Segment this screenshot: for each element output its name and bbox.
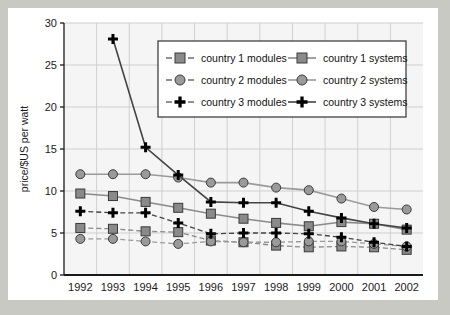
x-tick-label: 2002 xyxy=(394,281,418,293)
legend-label: country 1 modules xyxy=(201,52,287,64)
marker-circle xyxy=(141,170,150,179)
marker-circle xyxy=(108,234,117,243)
marker-square xyxy=(175,53,185,63)
marker-square xyxy=(76,223,85,232)
marker-square xyxy=(108,224,117,233)
y-tick-label: 5 xyxy=(51,227,57,239)
x-tick-label: 1998 xyxy=(264,281,288,293)
marker-square xyxy=(108,192,117,201)
y-tick-label: 10 xyxy=(45,185,57,197)
marker-circle xyxy=(206,178,215,187)
marker-square xyxy=(76,189,85,198)
marker-circle xyxy=(239,238,248,247)
marker-circle xyxy=(402,205,411,214)
marker-circle xyxy=(370,202,379,211)
x-tick-label: 1995 xyxy=(166,281,190,293)
y-tick-label: 15 xyxy=(45,143,57,155)
marker-square xyxy=(174,203,183,212)
figure-panel: 0510152025301992199319941995199619971998… xyxy=(8,8,438,300)
marker-circle xyxy=(108,170,117,179)
marker-square xyxy=(297,53,307,63)
x-tick-label: 1996 xyxy=(199,281,223,293)
legend-label: country 2 systems xyxy=(323,74,408,86)
legend-label: country 1 systems xyxy=(323,52,408,64)
marker-circle xyxy=(337,194,346,203)
marker-circle xyxy=(76,234,85,243)
y-axis-title: price/$US per watt xyxy=(18,106,30,192)
x-tick-label: 2000 xyxy=(329,281,353,293)
marker-square xyxy=(206,209,215,218)
y-tick-label: 25 xyxy=(45,59,57,71)
x-tick-label: 1999 xyxy=(297,281,321,293)
x-tick-label: 1994 xyxy=(133,281,157,293)
legend-label: country 3 systems xyxy=(323,96,408,108)
marker-circle xyxy=(297,75,307,85)
marker-circle xyxy=(174,239,183,248)
y-tick-label: 20 xyxy=(45,101,57,113)
chart-area: 0510152025301992199319941995199619971998… xyxy=(8,8,438,300)
legend-label: country 2 modules xyxy=(201,74,287,86)
marker-circle xyxy=(239,178,248,187)
marker-square xyxy=(141,227,150,236)
marker-circle xyxy=(304,186,313,195)
marker-circle xyxy=(272,183,281,192)
x-tick-label: 1992 xyxy=(68,281,92,293)
y-tick-label: 0 xyxy=(51,269,57,281)
x-tick-label: 1997 xyxy=(231,281,255,293)
line-chart: 0510152025301992199319941995199619971998… xyxy=(8,8,438,300)
marker-square xyxy=(272,218,281,227)
x-tick-label: 1993 xyxy=(101,281,125,293)
marker-circle xyxy=(141,237,150,246)
y-tick-label: 30 xyxy=(45,17,57,29)
marker-circle xyxy=(76,170,85,179)
marker-square xyxy=(239,214,248,223)
x-tick-label: 2001 xyxy=(362,281,386,293)
marker-circle xyxy=(175,75,185,85)
legend: country 1 modulescountry 1 systemscountr… xyxy=(158,41,408,117)
marker-square xyxy=(141,197,150,206)
legend-label: country 3 modules xyxy=(201,96,287,108)
marker-circle xyxy=(272,238,281,247)
marker-square xyxy=(174,228,183,237)
